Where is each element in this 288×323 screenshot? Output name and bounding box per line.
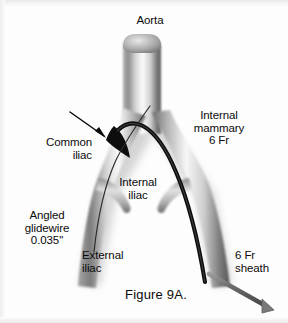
lesion-arrow-icon — [70, 112, 106, 138]
figure-9a: Aorta Internal mammary 6 Fr Common iliac… — [0, 0, 288, 323]
figure-caption: Figure 9A. — [108, 289, 204, 302]
label-internal-mammary: Internal mammary 6 Fr — [182, 109, 256, 147]
label-angled-glidewire: Angled glidewire 0.035" — [6, 209, 88, 247]
label-common-iliac: Common iliac — [22, 136, 92, 161]
vascular-illustration — [0, 0, 288, 323]
sheath-device — [209, 274, 274, 313]
label-sheath: 6 Fr sheath — [235, 249, 285, 274]
label-internal-iliac: Internal iliac — [104, 176, 172, 201]
label-aorta: Aorta — [118, 14, 182, 27]
label-external-iliac: External iliac — [82, 249, 154, 274]
